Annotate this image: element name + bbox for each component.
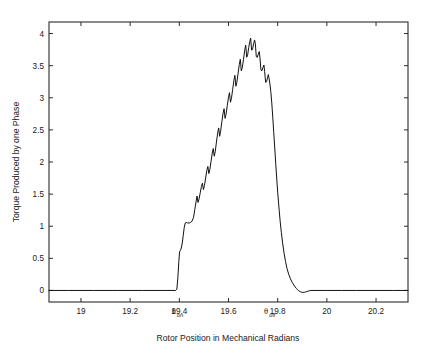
y-tick-label: 4 (39, 30, 44, 39)
y-tick-label: 3.5 (33, 62, 45, 71)
x-axis-title: Rotor Position in Mechanical Radians (157, 333, 300, 343)
y-axis-title: Torque Produced by one Phase (11, 102, 21, 223)
y-tick-label: 1.5 (33, 190, 45, 199)
theta-on-subscript: on (177, 312, 183, 318)
x-tick-label: 19.2 (122, 307, 138, 316)
y-tick-label: 0.5 (33, 254, 45, 263)
x-tick-label: 19.6 (221, 307, 237, 316)
y-tick-label: 1 (39, 222, 44, 231)
x-tick-label: 19 (76, 307, 86, 316)
y-tick-label: 3 (39, 94, 44, 103)
y-tick-label: 2.5 (33, 126, 45, 135)
y-tick-label: 2 (39, 158, 44, 167)
theta-on-symbol: θ (172, 306, 176, 316)
chart-figure: 1919.219.419.619.82020.2 00.511.522.533.… (0, 0, 430, 353)
theta-off-subscript: off (269, 312, 276, 318)
theta-off-symbol: θ (264, 306, 268, 316)
x-tick-label: 20.2 (368, 307, 384, 316)
y-tick-label: 0 (39, 286, 44, 295)
chart-background (0, 0, 430, 353)
torque-vs-rotor-position-chart: 1919.219.419.619.82020.2 00.511.522.533.… (0, 0, 430, 353)
x-tick-label: 20 (322, 307, 332, 316)
